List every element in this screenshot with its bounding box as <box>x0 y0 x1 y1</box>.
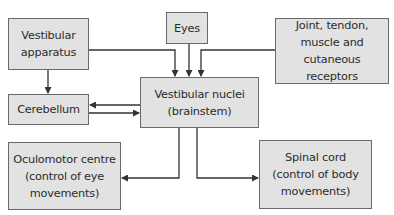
arrow-apparatus-to-nuclei <box>89 50 175 76</box>
node-cerebellum: Cerebellum <box>8 94 89 125</box>
arrow-nuclei-to-spinal-cord <box>197 128 258 178</box>
node-label: Cerebellum <box>17 101 80 118</box>
node-label: Spinal cord (control of body movements) <box>272 149 358 200</box>
node-label: Eyes <box>174 20 200 37</box>
arrow-receptors-to-nuclei <box>201 50 275 76</box>
node-eyes: Eyes <box>166 12 208 44</box>
node-label: Vestibular nuclei (brainstem) <box>154 86 244 120</box>
node-spinal-cord: Spinal cord (control of body movements) <box>259 140 372 209</box>
node-label: Oculomotor centre (control of eye moveme… <box>13 151 116 202</box>
node-receptors: Joint, tendon, muscle and cutaneous rece… <box>275 18 389 84</box>
node-vestibular-nuclei: Vestibular nuclei (brainstem) <box>140 77 259 128</box>
node-vestibular-apparatus: Vestibular apparatus <box>8 18 89 70</box>
node-label: Vestibular apparatus <box>21 27 76 61</box>
node-oculomotor-centre: Oculomotor centre (control of eye moveme… <box>8 142 121 210</box>
arrow-nuclei-to-oculomotor <box>122 128 179 178</box>
node-label: Joint, tendon, muscle and cutaneous rece… <box>276 17 388 85</box>
